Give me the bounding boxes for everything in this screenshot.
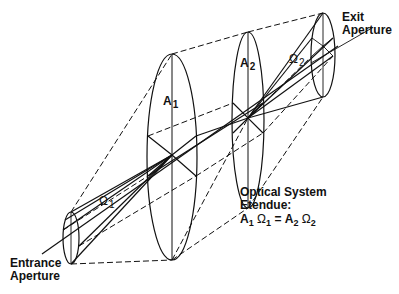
optical-geometry bbox=[0, 0, 399, 294]
etendue-equation: A1 Ω1 = A2 Ω2 bbox=[240, 213, 327, 227]
a2-label: A2 bbox=[240, 56, 255, 70]
omega1-label: Ω1 bbox=[99, 194, 115, 208]
etendue-caption: Optical System Etendue: A1 Ω1 = A2 Ω2 bbox=[240, 186, 327, 227]
omega2-label: Ω2 bbox=[289, 52, 305, 66]
exit-aperture-label: Exit Aperture bbox=[342, 11, 392, 37]
etendue-diagram: Entrance Aperture Exit Aperture A1 A2 Ω1… bbox=[0, 0, 399, 294]
entrance-aperture-label: Entrance Aperture bbox=[10, 257, 61, 283]
a1-label: A1 bbox=[163, 94, 178, 108]
